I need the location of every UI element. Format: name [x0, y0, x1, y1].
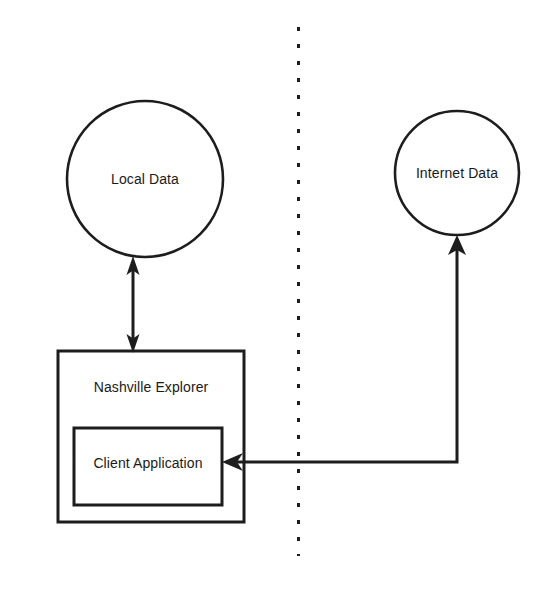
- internet-data-label: Internet Data: [416, 165, 498, 181]
- local-data-label: Local Data: [111, 171, 179, 187]
- diagram-canvas: Local Data Internet Data Nashville Explo…: [0, 0, 549, 589]
- nashville-explorer-label: Nashville Explorer: [94, 379, 209, 395]
- system-context-diagram: Local Data Internet Data Nashville Explo…: [0, 0, 549, 589]
- client-application-label: Client Application: [93, 455, 202, 471]
- internet-data-connector-line: [235, 248, 457, 462]
